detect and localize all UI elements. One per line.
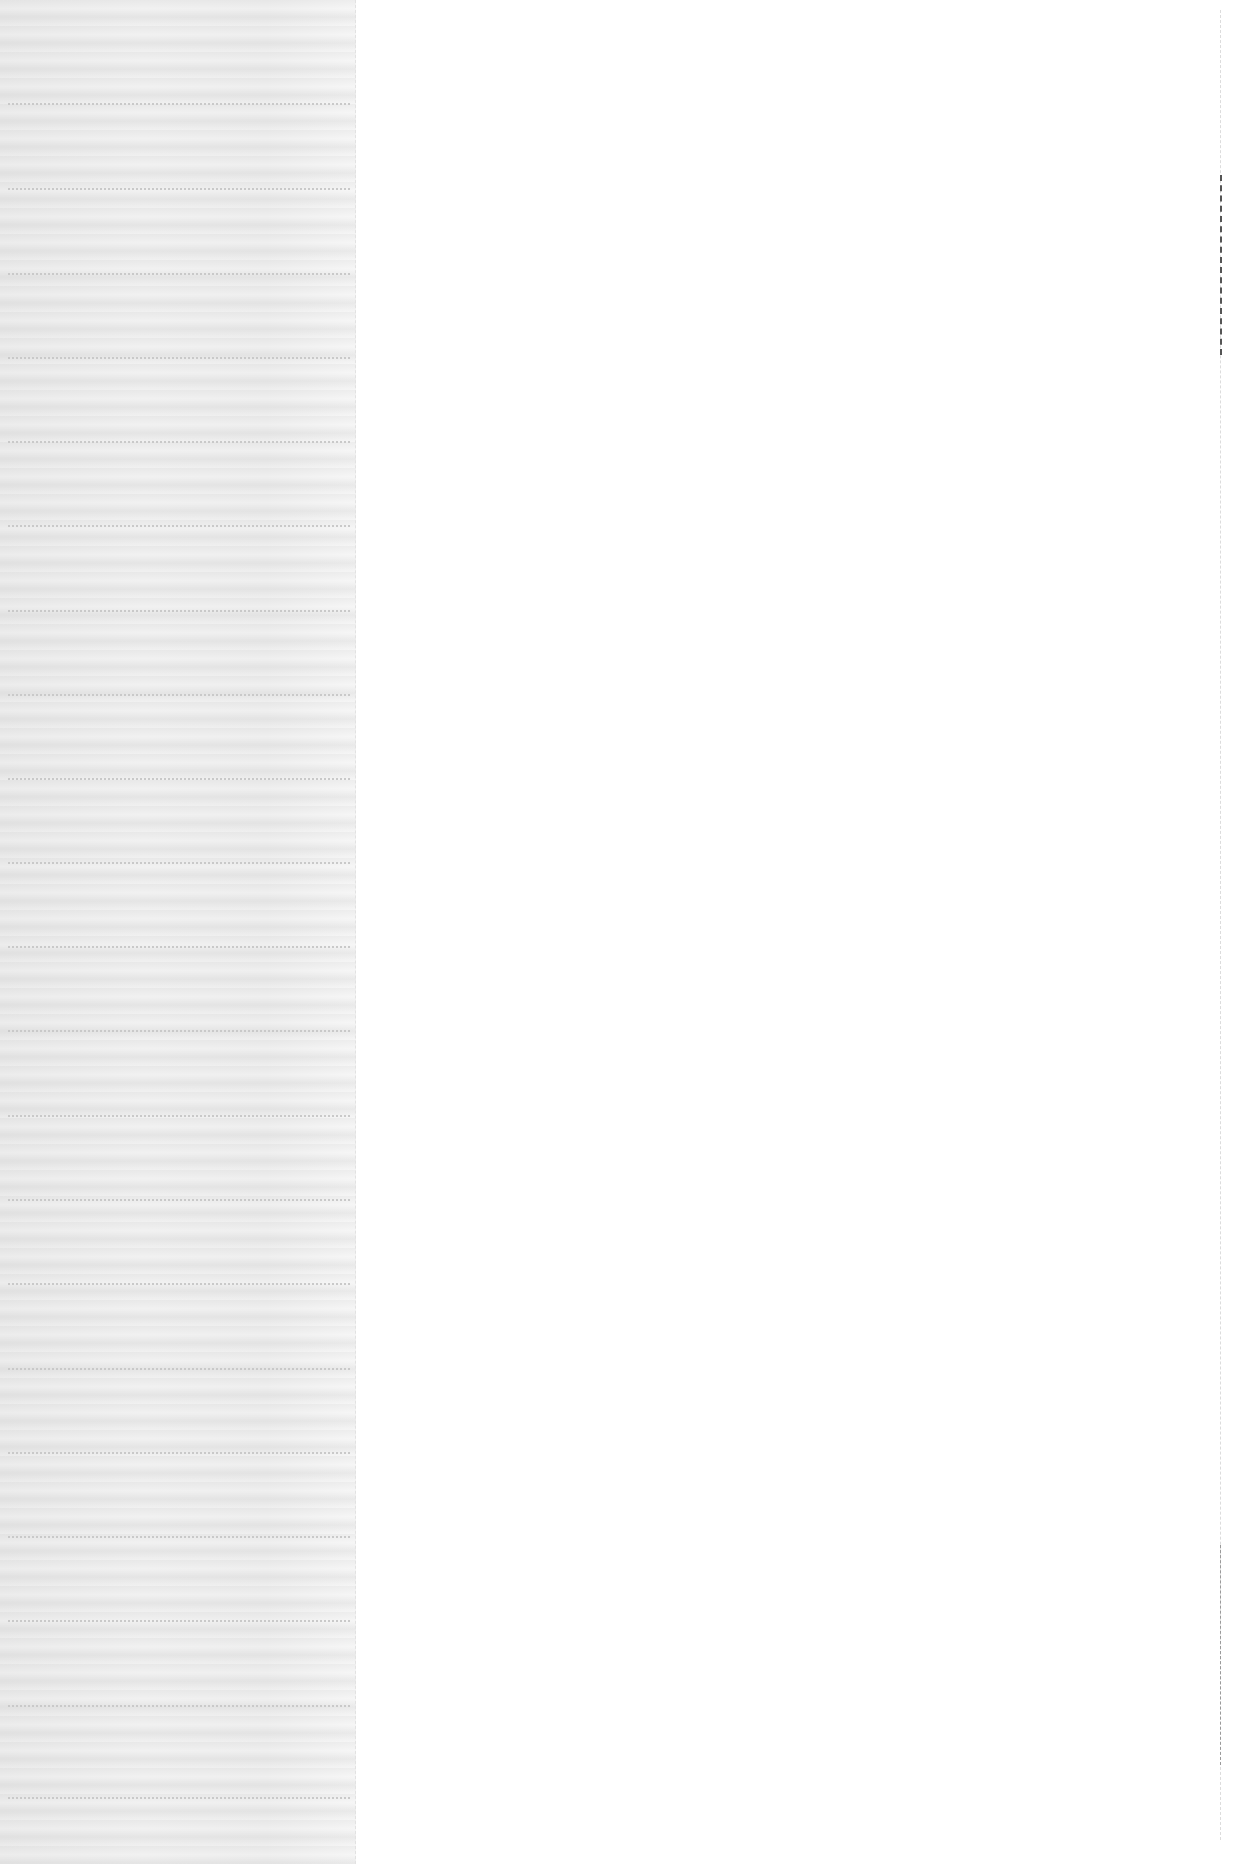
dotted-rule [8,610,350,612]
dotted-rule [8,525,350,527]
dotted-rule [8,1452,350,1454]
dotted-rule [8,1283,350,1285]
dotted-rule [8,1199,350,1201]
dotted-rule [8,1115,350,1117]
dotted-rule [8,273,350,275]
dotted-rule [8,694,350,696]
dotted-rule [8,778,350,780]
dotted-rule [8,1620,350,1622]
dotted-rule [8,1705,350,1707]
dotted-rule [8,188,350,190]
dotted-rule [8,441,350,443]
textured-margin-strip [0,0,356,1864]
dotted-rule [8,1368,350,1370]
dotted-rule [8,946,350,948]
dotted-rule [8,1536,350,1538]
dotted-rule [8,1797,350,1799]
right-dashed-guide-dark-segment [1220,175,1222,355]
dotted-rule [8,357,350,359]
right-dashed-guide-lower-segment [1220,1545,1221,1765]
dotted-rule [8,103,350,105]
blank-page-area [356,0,1254,1864]
dotted-rule [8,862,350,864]
dotted-rule [8,1030,350,1032]
